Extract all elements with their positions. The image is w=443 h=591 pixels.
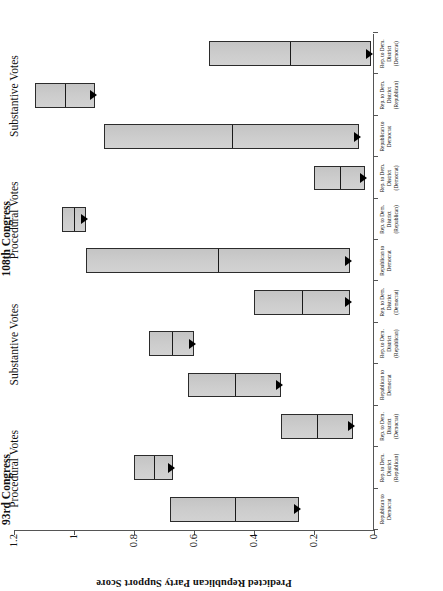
category-label-line: Democrat xyxy=(386,116,393,157)
category-label-line: (Republican) xyxy=(393,323,400,364)
category-label-line: District xyxy=(386,406,393,447)
value-tick-label: 1 xyxy=(69,534,80,539)
arrow-head-icon xyxy=(168,463,175,473)
range-bar xyxy=(314,166,365,191)
category-label-line: (Republican) xyxy=(393,74,400,115)
bar-midline xyxy=(340,167,341,190)
value-axis-title: Predicted Republican Party Support Score xyxy=(14,578,374,589)
range-bar xyxy=(134,455,173,480)
category-label-line: Rep. to Dem. xyxy=(379,323,386,364)
category-axis-label: Rep. to Dem.District(Republican) xyxy=(379,199,400,240)
plot-area: 00.20.40.60.811.2Republican toDemocratRe… xyxy=(14,34,374,531)
category-separator xyxy=(373,405,378,406)
category-axis-label: Rep. to Dem.District(Republican) xyxy=(379,447,400,488)
category-separator xyxy=(373,115,378,116)
value-tick-label: 0.8 xyxy=(129,534,140,547)
category-label-line: Republican to xyxy=(379,489,386,530)
category-label-line: Republican to xyxy=(379,116,386,157)
range-bar xyxy=(104,124,359,149)
category-axis-label: Rep. to Dem.District(Democrat) xyxy=(379,282,400,323)
category-label-line: Democrat xyxy=(386,364,393,405)
category-separator xyxy=(373,488,378,489)
category-label-line: (Republican) xyxy=(393,199,400,240)
arrow-head-icon xyxy=(294,504,301,514)
category-label-line: Republican to xyxy=(379,364,386,405)
bar-midline xyxy=(65,84,66,107)
category-label-line: District xyxy=(386,447,393,488)
category-axis-label: Rep. to Dem.District(Republican) xyxy=(379,74,400,115)
range-bar xyxy=(188,373,281,398)
value-tick-label: 1.2 xyxy=(9,534,20,547)
range-bar xyxy=(35,83,95,108)
arrow-head-icon xyxy=(189,339,196,349)
category-label-line: (Democrat) xyxy=(393,33,400,74)
category-axis-label: Republican toDemocrat xyxy=(379,240,393,281)
range-bar xyxy=(62,207,86,232)
bar-midline xyxy=(317,415,318,438)
arrow-head-icon xyxy=(276,380,283,390)
category-label-line: District xyxy=(386,33,393,74)
range-bar xyxy=(149,331,194,356)
category-label-line: Rep. to Dem. xyxy=(379,282,386,323)
value-tick-label: 0.4 xyxy=(249,534,260,547)
category-separator xyxy=(373,281,378,282)
range-bar xyxy=(170,497,299,522)
category-label-line: Rep. to Dem. xyxy=(379,406,386,447)
category-label-line: Rep. to Dem. xyxy=(379,33,386,74)
category-label-line: District xyxy=(386,157,393,198)
arrow-head-icon xyxy=(366,49,373,59)
category-axis-label: Republican toDemocrat xyxy=(379,116,393,157)
arrow-head-icon xyxy=(360,173,367,183)
category-axis-label: Rep. to Dem.District(Democrat) xyxy=(379,33,400,74)
category-separator xyxy=(373,198,378,199)
bar-midline xyxy=(290,42,291,65)
category-axis-label: Republican toDemocrat xyxy=(379,364,393,405)
arrow-head-icon xyxy=(345,256,352,266)
arrow-head-icon xyxy=(81,214,88,224)
category-separator xyxy=(373,32,378,33)
congress-header: 93rd Congress xyxy=(0,283,12,532)
category-label-line: District xyxy=(386,282,393,323)
category-separator xyxy=(373,322,378,323)
category-label-line: District xyxy=(386,74,393,115)
bar-midline xyxy=(172,332,173,355)
category-label-line: (Republican) xyxy=(393,447,400,488)
category-label-line: District xyxy=(386,199,393,240)
category-separator xyxy=(373,529,378,530)
category-axis-label: Rep. to Dem.District(Democrat) xyxy=(379,157,400,198)
category-separator xyxy=(373,446,378,447)
category-axis-label: Republican toDemocrat xyxy=(379,489,393,530)
arrow-head-icon xyxy=(354,132,361,142)
category-label-line: District xyxy=(386,323,393,364)
category-label-line: Democrat xyxy=(386,489,393,530)
value-tick-label: 0.2 xyxy=(309,534,320,547)
value-tick-label: 0.6 xyxy=(189,534,200,547)
category-label-line: Rep. to Dem. xyxy=(379,199,386,240)
value-tick-label: 0 xyxy=(369,534,380,539)
figure-canvas: Predicted Republican Party Support Score… xyxy=(0,0,443,591)
range-bar xyxy=(281,414,353,439)
bar-midline xyxy=(232,125,233,148)
range-bar xyxy=(86,248,350,273)
category-label-line: (Democrat) xyxy=(393,406,400,447)
arrow-head-icon xyxy=(345,297,352,307)
congress-header: 108th Congress xyxy=(0,34,12,283)
arrow-head-icon xyxy=(348,421,355,431)
category-label-line: Rep. to Dem. xyxy=(379,74,386,115)
bar-midline xyxy=(235,498,236,521)
arrow-head-icon xyxy=(90,90,97,100)
category-label-line: (Democrat) xyxy=(393,282,400,323)
bar-midline xyxy=(154,456,155,479)
category-label-line: Rep. to Dem. xyxy=(379,157,386,198)
bar-midline xyxy=(218,249,219,272)
chart-figure: Predicted Republican Party Support Score… xyxy=(0,0,443,591)
category-label-line: (Democrat) xyxy=(393,157,400,198)
bar-midline xyxy=(302,291,303,314)
range-bar xyxy=(209,41,371,66)
category-separator xyxy=(373,239,378,240)
range-bar xyxy=(254,290,350,315)
category-separator xyxy=(373,156,378,157)
category-label-line: Rep. to Dem. xyxy=(379,447,386,488)
bar-midline xyxy=(74,208,75,231)
category-label-line: Democrat xyxy=(386,240,393,281)
